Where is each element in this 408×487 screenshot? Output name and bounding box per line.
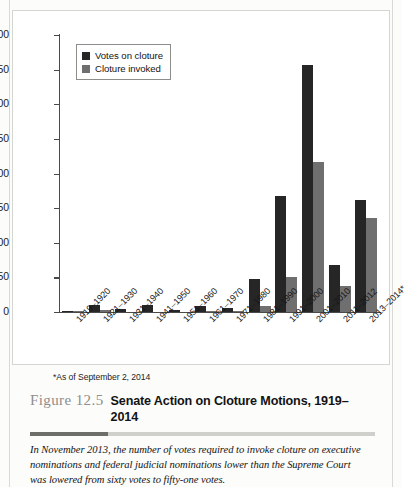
y-tick-label: 400 bbox=[0, 28, 9, 40]
figure-caption-block: Figure 12.5 Senate Action on Cloture Mot… bbox=[30, 392, 375, 487]
legend-swatch-votes-on-cloture bbox=[82, 52, 90, 60]
y-tick-mark bbox=[54, 139, 59, 140]
legend-swatch-cloture-invoked bbox=[82, 65, 90, 73]
legend-item-cloture-invoked: Cloture invoked bbox=[82, 62, 163, 75]
bar-group bbox=[302, 35, 324, 312]
bar-group bbox=[329, 35, 351, 312]
bar-group bbox=[195, 35, 217, 312]
bar-group bbox=[222, 35, 244, 312]
y-tick-mark bbox=[54, 208, 59, 209]
caption-rule bbox=[30, 432, 375, 436]
legend-item-votes-on-cloture: Votes on cloture bbox=[82, 49, 163, 62]
legend-label-votes-on-cloture: Votes on cloture bbox=[95, 50, 163, 61]
y-tick-label: 250 bbox=[0, 132, 9, 144]
page-border-right bbox=[392, 0, 393, 487]
y-tick-mark bbox=[54, 243, 59, 244]
page-border-left bbox=[9, 0, 10, 487]
figure-number: Figure 12.5 bbox=[30, 392, 104, 409]
y-tick-mark bbox=[54, 312, 59, 313]
bar-group bbox=[275, 35, 297, 312]
y-tick-label: 50 bbox=[0, 270, 9, 282]
bar-group bbox=[169, 35, 191, 312]
legend-label-cloture-invoked: Cloture invoked bbox=[95, 63, 161, 74]
chart-footnote: *As of September 2, 2014 bbox=[53, 372, 150, 382]
figure-title-row: Figure 12.5 Senate Action on Cloture Mot… bbox=[30, 392, 375, 425]
y-tick-mark bbox=[54, 174, 59, 175]
bar-votes-on-cloture bbox=[62, 311, 73, 312]
chart-legend: Votes on cloture Cloture invoked bbox=[76, 44, 171, 80]
y-tick-label: 150 bbox=[0, 201, 9, 213]
plot-wrapper: 050100150200250300350400 1919–19201921–1… bbox=[13, 11, 389, 364]
y-tick-label: 100 bbox=[0, 236, 9, 248]
bar-group bbox=[355, 35, 377, 312]
caption-rule-accent bbox=[30, 432, 108, 436]
y-tick-mark bbox=[54, 35, 59, 36]
figure-caption-text: In November 2013, the number of votes re… bbox=[30, 442, 363, 487]
y-tick-mark bbox=[54, 277, 59, 278]
y-tick-label: 0 bbox=[3, 305, 9, 317]
y-tick-mark bbox=[54, 70, 59, 71]
bar-group bbox=[249, 35, 271, 312]
y-tick-mark bbox=[54, 104, 59, 105]
y-tick-label: 200 bbox=[0, 167, 9, 179]
chart-panel: 050100150200250300350400 1919–19201921–1… bbox=[12, 10, 390, 365]
figure-title: Senate Action on Cloture Motions, 1919–2… bbox=[111, 393, 375, 425]
y-tick-label: 300 bbox=[0, 97, 9, 109]
y-tick-label: 350 bbox=[0, 63, 9, 75]
bar-votes-on-cloture bbox=[302, 65, 313, 312]
